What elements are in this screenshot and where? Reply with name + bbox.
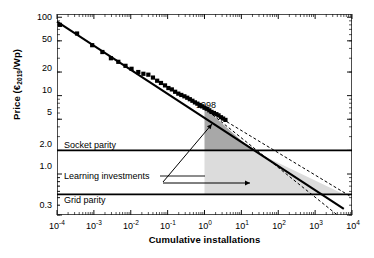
x-tick-label-1e-2: 10-2 xyxy=(114,218,148,231)
y-tick-label-100: 100 xyxy=(22,13,52,22)
experience-curve-figure: Price (€2019/Wp) Cumulative installation… xyxy=(0,0,374,258)
y-tick-label-5: 5 xyxy=(22,108,52,117)
year-1998-label: 1998 xyxy=(196,100,216,110)
x-tick-label-1e2: 102 xyxy=(262,218,296,231)
x-tick-label-1e-4: 10-4 xyxy=(40,218,74,231)
plot-area xyxy=(57,14,352,215)
x-tick-label-1e1: 101 xyxy=(225,218,259,231)
x-tick-label-1e-1: 10-1 xyxy=(151,218,185,231)
y-axis-title: Price (€2019/Wp) xyxy=(11,29,24,139)
y-tick-label-0.3: 0.3 xyxy=(22,201,52,210)
y-tick-label-50: 50 xyxy=(22,35,52,44)
x-axis-title: Cumulative installations xyxy=(57,234,352,245)
socket-parity-label: Socket parity xyxy=(64,140,116,150)
y-axis-title-main: Price (€ xyxy=(11,85,22,120)
x-tick-label-1e4: 104 xyxy=(336,218,370,231)
x-tick-label-1e3: 103 xyxy=(299,218,333,231)
x-tick-label-1e0: 100 xyxy=(188,218,222,231)
y-tick-label-20: 20 xyxy=(22,64,52,73)
grid-parity-label: Grid parity xyxy=(64,195,106,205)
learning-investments-label: Learning investments xyxy=(64,171,150,181)
y-tick-label-10: 10 xyxy=(22,86,52,95)
y-tick-label-2: 2.0 xyxy=(22,140,52,149)
y-tick-label-1: 1.0 xyxy=(22,162,52,171)
x-tick-label-1e-3: 10-3 xyxy=(77,218,111,231)
y-axis-title-tail: /Wp) xyxy=(11,49,22,70)
